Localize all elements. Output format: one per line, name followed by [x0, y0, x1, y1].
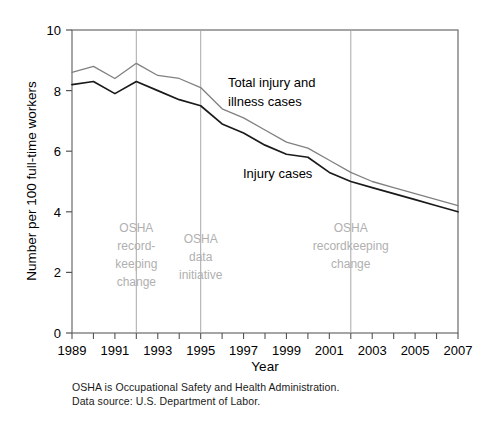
- x-tick-label-2001: 2001: [315, 343, 344, 358]
- total-series-label-line2: illness cases: [228, 94, 302, 109]
- event-label-osha-recordkeeping-change-2002-line3: change: [331, 257, 371, 271]
- x-axis-title: Year: [251, 359, 279, 374]
- footnotes: OSHA is Occupational Safety and Health A…: [72, 381, 339, 408]
- event-label-osha-recordkeeping-change-2002-line2: recordkeeping: [313, 239, 389, 253]
- x-tick-label-1995: 1995: [186, 343, 215, 358]
- event-label-osha-data-initiative-1995-line1: OSHA: [184, 232, 218, 246]
- chart-figure: 0246810 19891991199319951997199920012003…: [0, 0, 485, 437]
- x-tick-label-2003: 2003: [358, 343, 387, 358]
- event-label-osha-data-initiative-1995-line3: initiative: [179, 268, 223, 282]
- y-tick-label-4: 4: [54, 205, 61, 220]
- event-label-osha-recordkeeping-change-1992-line4: change: [117, 275, 157, 289]
- total-series-label-line1: Total injury and: [228, 75, 315, 90]
- event-label-osha-recordkeeping-change-1992-line3: keeping: [115, 257, 157, 271]
- injury-illness-rate-line-chart: 0246810 19891991199319951997199920012003…: [0, 0, 485, 437]
- event-label-osha-recordkeeping-change-1992-line2: record-: [117, 239, 155, 253]
- y-tick-label-2: 2: [54, 265, 61, 280]
- footnote-osha-definition: OSHA is Occupational Safety and Health A…: [72, 381, 339, 395]
- x-tick-label-2007: 2007: [444, 343, 473, 358]
- event-label-osha-data-initiative-1995-line2: data: [189, 250, 213, 264]
- x-tick-label-1999: 1999: [272, 343, 301, 358]
- y-tick-label-8: 8: [54, 84, 61, 99]
- x-tick-label-1993: 1993: [143, 343, 172, 358]
- x-tick-label-2005: 2005: [401, 343, 430, 358]
- x-axis: 1989199119931995199719992001200320052007: [58, 333, 473, 358]
- event-label-osha-recordkeeping-change-2002-line1: OSHA: [334, 221, 368, 235]
- x-tick-label-1997: 1997: [229, 343, 258, 358]
- x-tick-label-1989: 1989: [58, 343, 87, 358]
- y-axis-title: Number per 100 full-time workers: [24, 81, 39, 281]
- event-label-osha-recordkeeping-change-1992-line1: OSHA: [119, 221, 153, 235]
- x-tick-label-1991: 1991: [100, 343, 129, 358]
- injury-series-label: Injury cases: [243, 166, 313, 181]
- footnote-data-source: Data source: U.S. Department of Labor.: [72, 395, 339, 409]
- y-tick-label-10: 10: [47, 23, 61, 38]
- y-axis: 0246810: [47, 23, 72, 341]
- y-tick-label-6: 6: [54, 144, 61, 159]
- y-tick-label-0: 0: [54, 326, 61, 341]
